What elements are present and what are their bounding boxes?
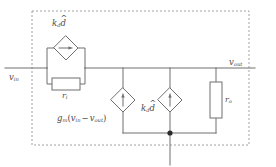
dependent-source-mid-label: kd^d [141,104,155,113]
node-label-vout: vout [229,58,242,67]
wire-ri-right [80,68,85,84]
vccs-gm-label: gm(vin−vout) [57,114,106,123]
hat-accent-top: ^ [60,14,67,22]
circuit-schematic-canvas [0,0,276,167]
circuit-diagram: vin vout kd^d ri gm(vin−vout) kd^d ro [0,0,276,167]
wire-input-block-right [78,48,85,68]
resistor-output-body [210,82,222,118]
resistor-input-body [52,78,80,90]
resistor-input-label: ri [62,92,68,100]
resistor-output-label: ro [225,96,232,104]
wire-ri-left [47,68,52,84]
dependent-source-top-label: kd^d [52,19,66,28]
ground-junction-dot [167,130,172,135]
node-label-vin: vin [9,73,19,82]
wire-input-block-left [47,48,54,68]
hat-accent-mid: ^ [149,99,156,107]
